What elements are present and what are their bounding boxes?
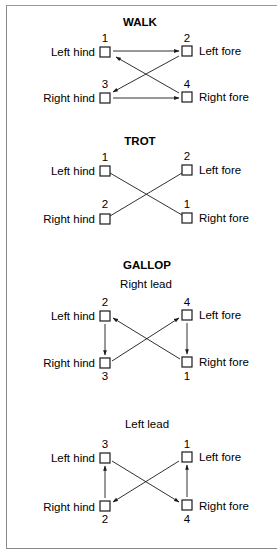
- hoof-box-right-hind: [100, 93, 110, 103]
- section-subtitle: Right lead: [120, 278, 172, 290]
- label-left-fore: Left fore: [199, 309, 241, 321]
- gait-diagram: WALK 1 2 3 4 Left hind Left fore Right h…: [0, 0, 277, 552]
- label-right-hind: Right hind: [43, 501, 95, 513]
- label-left-hind: Left hind: [51, 452, 95, 464]
- label-right-hind: Right hind: [43, 92, 95, 104]
- label-right-fore: Right fore: [199, 212, 249, 224]
- label-left-hind: Left hind: [51, 310, 95, 322]
- step-number-right-hind: 3: [102, 78, 108, 90]
- step-number-right-fore: 4: [184, 513, 191, 525]
- hoof-box-right-fore: [182, 92, 192, 102]
- hoof-box-left-hind: [100, 47, 110, 57]
- section-walk: WALK 1 2 3 4 Left hind Left fore Right h…: [43, 16, 249, 104]
- step-number-right-fore: 4: [184, 78, 191, 90]
- label-right-hind: Right hind: [43, 213, 95, 225]
- hoof-box-right-hind: [100, 358, 110, 368]
- hoof-box-right-fore: [182, 357, 192, 367]
- hoof-box-left-fore: [182, 165, 192, 175]
- hoof-box-left-fore: [182, 452, 192, 462]
- step-number-left-hind: 3: [102, 438, 108, 450]
- step-number-left-fore: 2: [184, 150, 190, 162]
- arrow-rh-to-lf: [112, 318, 179, 361]
- arrow-rf-to-lh: [116, 57, 179, 93]
- section-subtitle: Left lead: [125, 418, 169, 430]
- step-number-right-hind: 3: [102, 370, 108, 382]
- step-number-right-hind: 2: [102, 513, 108, 525]
- label-left-hind: Left hind: [51, 165, 95, 177]
- section-title: WALK: [123, 16, 158, 28]
- section-title: TROT: [124, 135, 155, 147]
- label-right-fore: Right fore: [199, 91, 249, 103]
- section-gallop-right-lead: GALLOP Right lead 2 4 3 1 Left hind Left…: [43, 259, 249, 382]
- label-left-fore: Left fore: [199, 451, 241, 463]
- hoof-box-left-hind: [100, 166, 110, 176]
- step-number-left-hind: 1: [102, 151, 108, 163]
- label-right-fore: Right fore: [199, 500, 249, 512]
- section-gallop-left-lead: Left lead 3 1 2 4 Left hind Left fore Ri…: [43, 418, 249, 525]
- step-number-left-hind: 1: [102, 32, 108, 44]
- hoof-box-left-fore: [182, 310, 192, 320]
- step-number-right-fore: 1: [184, 198, 190, 210]
- hoof-box-right-hind: [100, 214, 110, 224]
- step-number-left-fore: 1: [184, 438, 190, 450]
- hoof-box-right-hind: [100, 501, 110, 511]
- hoof-box-right-fore: [182, 213, 192, 223]
- label-left-fore: Left fore: [199, 164, 241, 176]
- hoof-box-left-fore: [182, 46, 192, 56]
- label-right-fore: Right fore: [199, 356, 249, 368]
- label-left-hind: Left hind: [51, 46, 95, 58]
- step-number-left-fore: 4: [184, 296, 191, 308]
- step-number-left-fore: 2: [184, 32, 190, 44]
- step-number-right-fore: 1: [184, 370, 190, 382]
- hoof-box-left-hind: [100, 453, 110, 463]
- section-trot: TROT 1 2 2 1 Left hind Left fore Right h…: [43, 135, 249, 225]
- label-left-fore: Left fore: [199, 45, 241, 57]
- hoof-box-left-hind: [100, 311, 110, 321]
- label-right-hind: Right hind: [43, 357, 95, 369]
- hoof-box-right-fore: [182, 500, 192, 510]
- section-title: GALLOP: [123, 259, 171, 271]
- step-number-left-hind: 2: [102, 296, 108, 308]
- step-number-right-hind: 2: [102, 198, 108, 210]
